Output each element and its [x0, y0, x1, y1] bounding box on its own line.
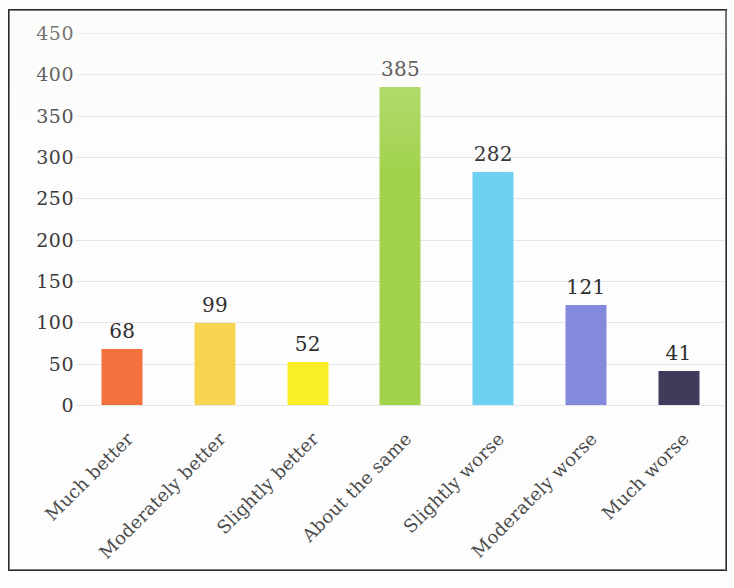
y-axis-tick-label: 150 — [22, 270, 74, 292]
y-axis-tick-label: 200 — [22, 229, 74, 251]
y-axis-tick-label: 50 — [22, 353, 74, 375]
bar[interactable] — [195, 323, 236, 405]
bar-chart: 050100150200250300350400450 689952385282… — [10, 11, 729, 573]
screenshot-page: 050100150200250300350400450 689952385282… — [0, 0, 734, 588]
y-axis-tick-label: 450 — [22, 22, 74, 44]
y-axis-tick-label: 0 — [22, 394, 74, 416]
bar[interactable] — [658, 371, 699, 405]
bar-group: 41 — [632, 33, 725, 405]
y-axis-tick-label: 350 — [22, 105, 74, 127]
y-axis-tick-label: 300 — [22, 146, 74, 168]
bar[interactable] — [287, 362, 328, 405]
x-axis-category-labels: Much betterModerately betterSlightly bet… — [76, 414, 725, 564]
bar-value-label: 121 — [566, 275, 605, 299]
chart-frame-border: 050100150200250300350400450 689952385282… — [8, 9, 727, 571]
bar-group: 52 — [261, 33, 354, 405]
x-axis-label-slot: Much worse — [632, 414, 725, 564]
bar[interactable] — [102, 349, 143, 405]
bar-group: 99 — [169, 33, 262, 405]
y-axis-tick-label: 400 — [22, 63, 74, 85]
bar-value-label: 99 — [202, 293, 228, 317]
bar-value-label: 385 — [381, 57, 420, 81]
plot-area: 68995238528212141 — [76, 33, 725, 405]
y-axis-tick-label: 100 — [22, 311, 74, 333]
bar-group: 121 — [540, 33, 633, 405]
y-axis-tick-label: 250 — [22, 187, 74, 209]
bar-value-label: 282 — [474, 142, 513, 166]
gridline — [76, 405, 725, 406]
bar-value-label: 52 — [295, 332, 321, 356]
bar[interactable] — [565, 305, 606, 405]
bar-group: 385 — [354, 33, 447, 405]
bar-group: 282 — [447, 33, 540, 405]
bar-value-label: 68 — [109, 319, 135, 343]
bar[interactable] — [473, 172, 514, 405]
bar-value-label: 41 — [666, 341, 692, 365]
bar-group: 68 — [76, 33, 169, 405]
bar[interactable] — [380, 87, 421, 405]
